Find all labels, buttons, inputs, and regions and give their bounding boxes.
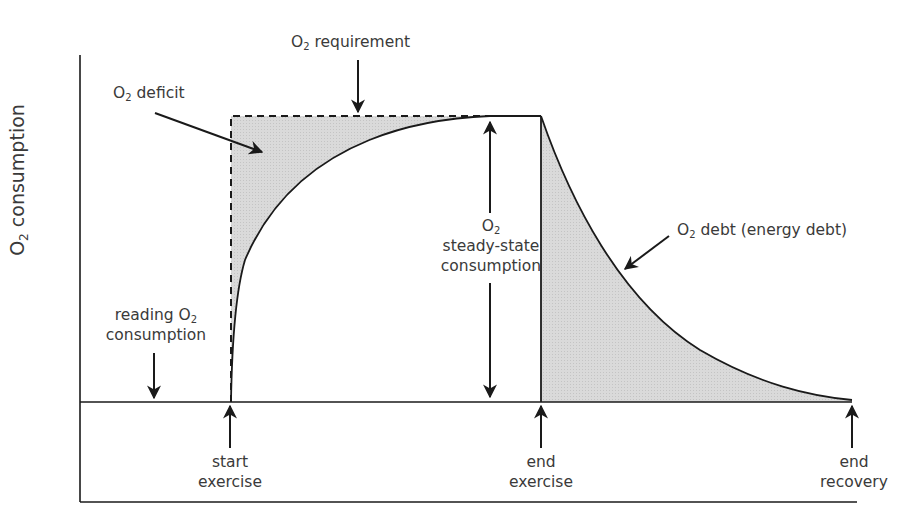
o2-debt-area	[541, 116, 852, 402]
end-recovery-label: end recovery	[804, 452, 904, 492]
end-exercise-label: end exercise	[491, 452, 591, 492]
o2-requirement-label: O2 requirement	[291, 32, 410, 52]
o2-debt-label: O2 debt (energy debt)	[677, 220, 847, 240]
o2-steady-state-label: O2 steady-state consumption	[426, 216, 556, 276]
o2-deficit-label: O2 deficit	[113, 83, 185, 103]
debt-arrow	[625, 236, 669, 269]
start-exercise-label: start exercise	[180, 452, 280, 492]
resting-consumption-label: reading O2 consumption	[96, 305, 216, 345]
y-axis-label: O2 consumption	[6, 80, 28, 280]
